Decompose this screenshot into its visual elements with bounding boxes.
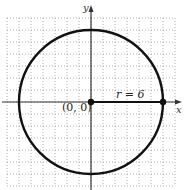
circle-diagram: x y (0, 0) r = 6	[0, 0, 184, 190]
y-axis	[89, 5, 94, 190]
y-axis-label: y	[82, 2, 89, 13]
center-label: (0, 0)	[62, 101, 92, 114]
x-axis-label: x	[176, 104, 182, 115]
radius-endpoint	[160, 99, 166, 105]
radius-label: r = 6	[116, 88, 144, 101]
